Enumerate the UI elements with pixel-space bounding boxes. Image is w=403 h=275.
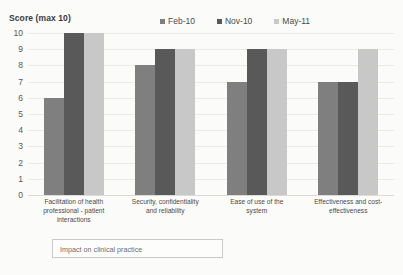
legend-swatch-icon xyxy=(274,19,279,24)
legend-label: Feb-10 xyxy=(168,16,195,26)
y-axis-tick-label: 6 xyxy=(18,93,23,103)
bar[interactable] xyxy=(247,49,267,195)
chart-legend: Feb-10Nov-10May-11 xyxy=(160,16,310,26)
x-axis-category-label-line: system xyxy=(211,206,303,215)
footer-textbox: Impact on clinical practice xyxy=(52,239,223,258)
gridline xyxy=(28,195,394,196)
footer-textbox-label: Impact on clinical practice xyxy=(60,244,142,253)
bar[interactable] xyxy=(155,49,175,195)
bar[interactable] xyxy=(44,98,64,195)
y-axis-tick-label: 0 xyxy=(18,190,23,200)
bar[interactable] xyxy=(84,33,104,195)
x-axis-labels: Facilitation of healthprofessional - pat… xyxy=(28,197,394,237)
x-axis-category-label-line: Effectiveness and cost- xyxy=(303,197,395,206)
bar-groups xyxy=(28,33,394,195)
y-axis-tick-label: 4 xyxy=(18,125,23,135)
x-axis-category-label-line: Security, confidentiality xyxy=(120,197,212,206)
x-axis-category-label: Ease of use of thesystem xyxy=(211,197,303,215)
x-axis-category-label: Security, confidentialityand reliability xyxy=(120,197,212,215)
x-axis-category-label-line: and reliability xyxy=(120,206,212,215)
y-axis-tick-label: 9 xyxy=(18,44,23,54)
legend-swatch-icon xyxy=(160,19,165,24)
y-axis-tick-label: 7 xyxy=(18,77,23,87)
bar[interactable] xyxy=(318,82,338,195)
y-axis-tick-label: 8 xyxy=(18,60,23,70)
legend-entry-nov-10[interactable]: Nov-10 xyxy=(217,16,252,26)
x-axis-category-label: Facilitation of healthprofessional - pat… xyxy=(28,197,120,225)
legend-label: Nov-10 xyxy=(225,16,252,26)
bar[interactable] xyxy=(175,49,195,195)
bar[interactable] xyxy=(267,49,287,195)
y-axis-tick-label: 3 xyxy=(18,141,23,151)
bar-chart: Score (max 10) Feb-10Nov-10May-11 109876… xyxy=(0,0,403,275)
legend-label: May-11 xyxy=(282,16,310,26)
bar-group xyxy=(211,33,303,195)
bar-group xyxy=(303,33,395,195)
legend-entry-may-11[interactable]: May-11 xyxy=(274,16,310,26)
x-axis-category-label-line: Facilitation of health xyxy=(28,197,120,206)
y-axis-tick-label: 1 xyxy=(18,174,23,184)
bar[interactable] xyxy=(135,65,155,195)
x-axis-category-label-line: interactions xyxy=(28,215,120,224)
bar-group xyxy=(28,33,120,195)
y-axis-tick-label: 10 xyxy=(14,28,23,38)
x-axis-category-label: Effectiveness and cost-effectiveness xyxy=(303,197,395,215)
bar[interactable] xyxy=(338,82,358,195)
y-axis-title: Score (max 10) xyxy=(9,13,71,23)
x-axis-category-label-line: Ease of use of the xyxy=(211,197,303,206)
bar[interactable] xyxy=(64,33,84,195)
legend-swatch-icon xyxy=(217,19,222,24)
y-axis-tick-label: 2 xyxy=(18,158,23,168)
legend-entry-feb-10[interactable]: Feb-10 xyxy=(160,16,195,26)
y-axis-tick-label: 5 xyxy=(18,109,23,119)
x-axis-category-label-line: effectiveness xyxy=(303,206,395,215)
bar[interactable] xyxy=(227,82,247,195)
plot-area: 109876543210 xyxy=(28,33,394,195)
x-axis-category-label-line: professional - patient xyxy=(28,206,120,215)
bar-group xyxy=(120,33,212,195)
bar[interactable] xyxy=(358,49,378,195)
